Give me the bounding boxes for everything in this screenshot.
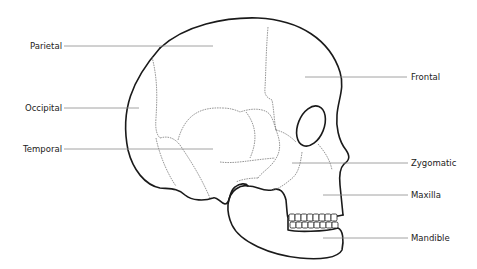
cranium-outline — [160, 18, 349, 215]
label-parietal: Parietal — [30, 41, 62, 51]
occipital-outline — [126, 48, 248, 204]
skull-diagram: Parietal Occipital Temporal Frontal Zygo… — [0, 0, 477, 269]
label-frontal: Frontal — [411, 72, 440, 82]
label-temporal: Temporal — [22, 144, 62, 154]
label-mandible: Mandible — [411, 233, 450, 243]
orbit-outline — [291, 102, 331, 151]
label-zygomatic: Zygomatic — [411, 158, 457, 168]
label-maxilla: Maxilla — [411, 190, 441, 200]
label-occipital: Occipital — [25, 103, 62, 113]
upper-teeth — [289, 214, 337, 221]
lower-teeth — [290, 222, 338, 228]
